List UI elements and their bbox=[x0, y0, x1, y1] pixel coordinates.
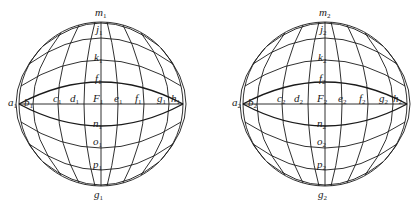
label-F2: F2 bbox=[316, 92, 328, 106]
label-g1-equator: g1 bbox=[157, 92, 167, 106]
two-sphere-grid-diagram: m1 j1 k1 f1 a1 b1 c1 d1 F1 e1 f1 g1 h1 n… bbox=[0, 0, 411, 211]
label-m2: m2 bbox=[319, 6, 331, 20]
label-k2: k2 bbox=[318, 51, 327, 65]
label-j1: j1 bbox=[94, 23, 103, 37]
label-e2: e2 bbox=[338, 92, 347, 106]
label-d1: d1 bbox=[70, 92, 80, 106]
label-c1: c1 bbox=[53, 92, 62, 106]
label-h1: h1 bbox=[171, 92, 181, 106]
label-h2: h2 bbox=[393, 92, 403, 106]
label-k1: k1 bbox=[94, 51, 103, 65]
label-d2: d2 bbox=[294, 92, 304, 106]
label-j2: j2 bbox=[318, 23, 327, 37]
label-e1: e1 bbox=[114, 92, 123, 106]
label-g2-bottom: g2 bbox=[318, 188, 328, 202]
label-f1-equator: f1 bbox=[135, 92, 142, 106]
label-f2-equator: f2 bbox=[359, 92, 366, 106]
label-c2: c2 bbox=[277, 92, 286, 106]
label-g1-bottom: g1 bbox=[94, 188, 104, 202]
label-F1: F1 bbox=[92, 92, 104, 106]
label-m1: m1 bbox=[95, 6, 107, 20]
